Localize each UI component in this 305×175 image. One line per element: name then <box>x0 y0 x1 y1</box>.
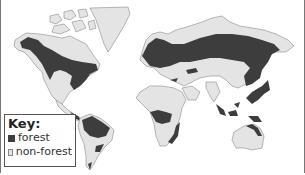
non-forest-swatch <box>8 149 13 156</box>
map-key: Key: forest non-forest <box>4 114 76 167</box>
key-label-forest: forest <box>18 131 50 145</box>
greenland <box>90 7 130 52</box>
key-label-non-forest: non-forest <box>16 145 72 159</box>
key-item-forest: forest <box>8 131 72 145</box>
forest-swatch <box>8 135 15 142</box>
arctic-islands <box>50 9 96 34</box>
key-title: Key: <box>8 116 72 131</box>
southeast-asia-islands <box>216 102 262 122</box>
australia <box>232 124 264 150</box>
key-item-non-forest: non-forest <box>8 145 72 159</box>
